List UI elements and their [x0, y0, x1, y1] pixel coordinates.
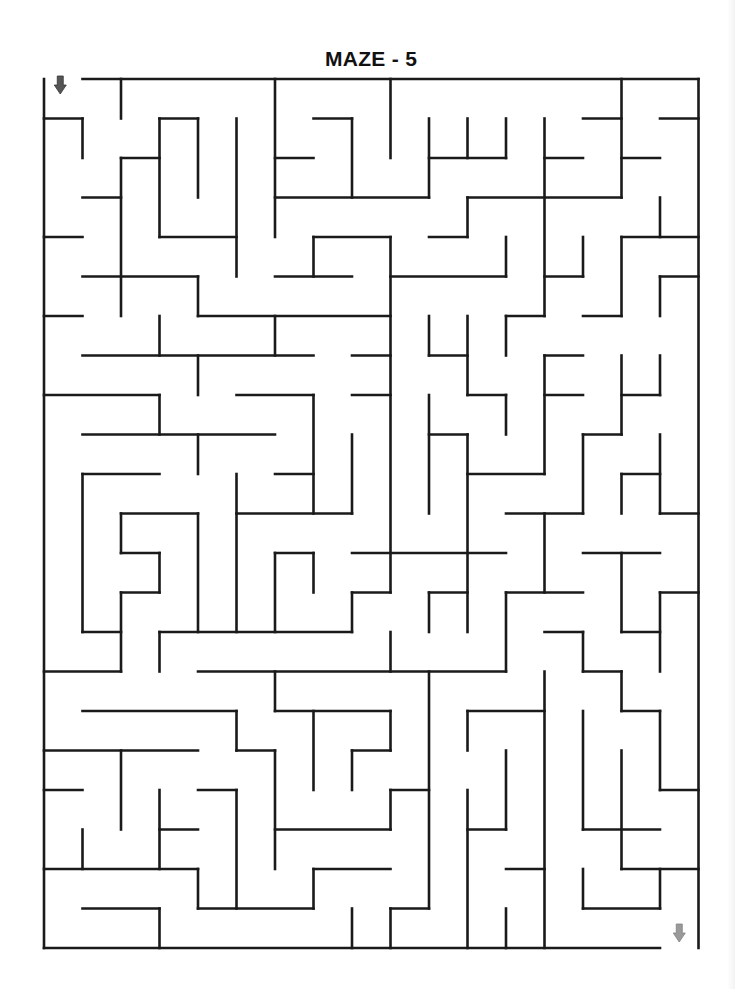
maze-wall-group [44, 79, 699, 948]
maze-walls [0, 0, 735, 989]
arrow-down-icon [54, 76, 66, 94]
page-edge [727, 0, 735, 989]
arrow-down-icon [673, 924, 685, 942]
maze-board [0, 0, 735, 989]
